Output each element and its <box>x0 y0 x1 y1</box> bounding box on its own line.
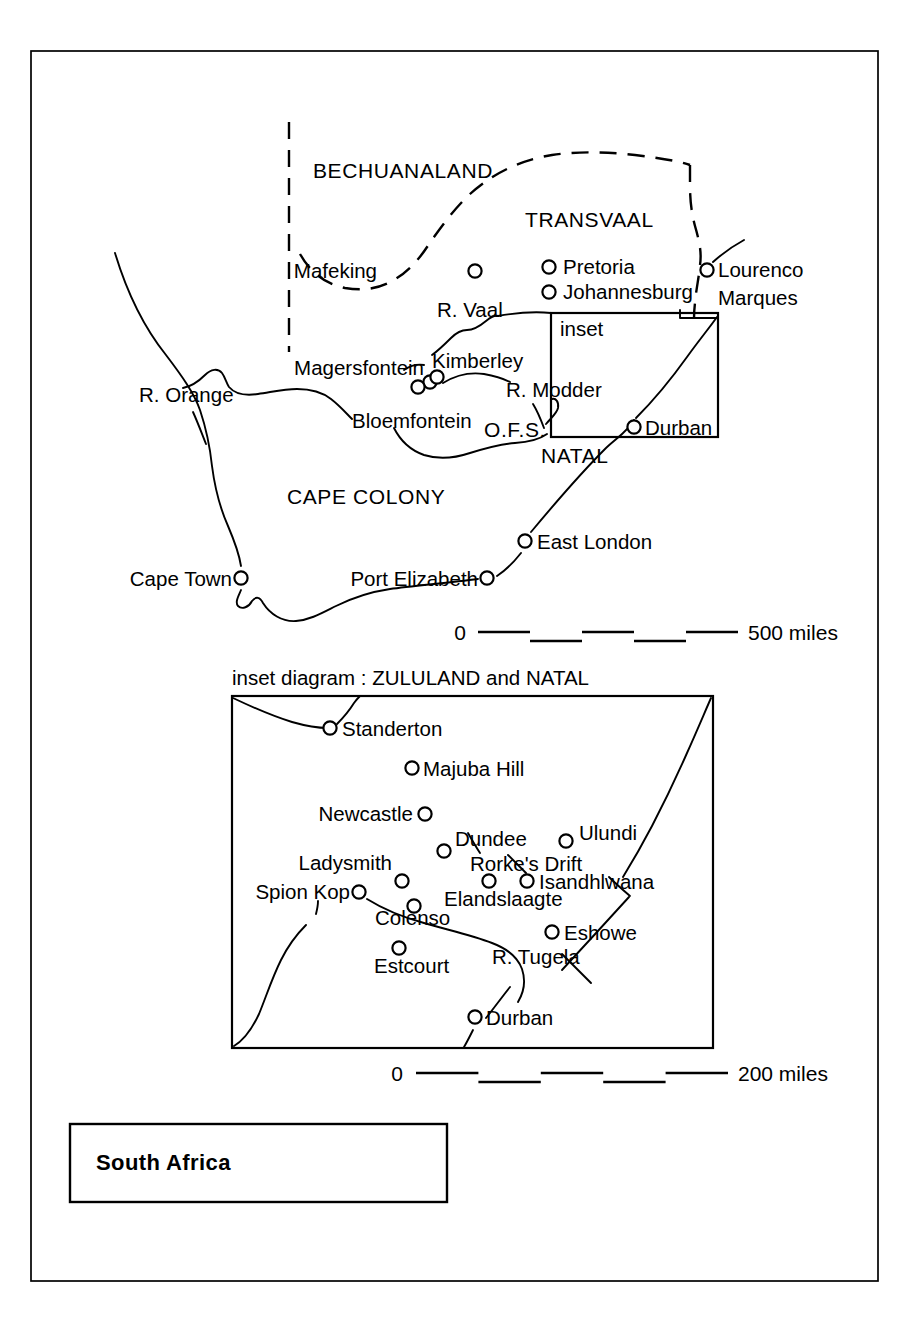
city-label-durban: Durban <box>486 1006 553 1029</box>
region-label-bechuanaland: BECHUANALAND <box>313 159 493 182</box>
south-africa-map: MafekingPretoriaJohannesburgLourencoMarq… <box>0 0 919 1325</box>
city-label-east-london: East London <box>537 530 652 553</box>
inset-scale-segments <box>416 1073 728 1082</box>
city-label-eshowe: Eshowe <box>564 921 637 944</box>
inset-river-label-r-tugela: R. Tugela <box>492 945 580 968</box>
city-label-ulundi: Ulundi <box>579 821 637 844</box>
inset-east-coastline <box>623 698 711 877</box>
city-marker-durban <box>627 420 640 433</box>
orange-river-fork <box>193 412 206 444</box>
city-marker-majuba-hill <box>405 761 418 774</box>
city-marker-cape-town <box>234 571 247 584</box>
west-coastline <box>115 253 241 566</box>
main-scale-bar: 0 500 miles <box>454 621 838 644</box>
city-marker-lourenco <box>700 263 713 276</box>
city-label-colenso: Colenso <box>375 906 450 929</box>
city-label-standerton: Standerton <box>342 717 442 740</box>
inset-caption: inset diagram : ZULULAND and NATAL <box>232 666 589 689</box>
city-label-durban: Durban <box>645 416 712 439</box>
city-marker-dundee <box>437 844 450 857</box>
city-label-pretoria: Pretoria <box>563 255 635 278</box>
east-coastline <box>497 553 521 576</box>
inset-scale-zero-label: 0 <box>391 1062 403 1085</box>
main-scale-max-label: 500 miles <box>748 621 838 644</box>
city-label-mafeking: Mafeking <box>294 259 377 282</box>
city-marker-johannesburg <box>542 285 555 298</box>
city-label-magersfontein: Magersfontein <box>294 356 424 379</box>
vaal-river <box>498 312 551 316</box>
city-marker-elandslaagte <box>482 874 495 887</box>
inset-scale-bar: 0 200 miles <box>391 1062 828 1085</box>
modder-river <box>443 373 510 383</box>
city-label-kimberley: Kimberley <box>432 349 524 372</box>
map-page: MafekingPretoriaJohannesburgLourencoMarq… <box>0 0 919 1325</box>
city-marker-pretoria <box>542 260 555 273</box>
river-label-r-modder: R. Modder <box>506 378 602 401</box>
city-marker-kimberley <box>430 370 443 383</box>
city-label-spion-kop: Spion Kop <box>255 880 350 903</box>
main-scale-segments <box>478 632 738 641</box>
city-marker-port-elizabeth <box>480 571 493 584</box>
region-label-transvaal: TRANSVAAL <box>525 208 654 231</box>
city-label-elandslaagte: Elandslaagte <box>444 887 563 910</box>
inset-west-boundary <box>234 925 306 1046</box>
river-label-r-vaal: R. Vaal <box>437 298 503 321</box>
map-title-label: South Africa <box>96 1150 231 1175</box>
inset-map-labels: StandertonMajuba HillNewcastleDundeeUlun… <box>255 717 654 1029</box>
main-scale-zero-label: 0 <box>454 621 466 644</box>
city-marker-mafeking <box>468 264 481 277</box>
annotation-inset: inset <box>560 317 604 340</box>
city-marker-spion-kop <box>352 885 365 898</box>
city-label-johannesburg: Johannesburg <box>563 280 693 303</box>
city-marker-newcastle <box>418 807 431 820</box>
river-label-r-orange: R. Orange <box>139 383 234 406</box>
city-marker-durban <box>468 1010 481 1023</box>
city-marker-estcourt <box>392 941 405 954</box>
city-label-newcastle: Newcastle <box>318 802 413 825</box>
region-label-cape-colony: CAPE COLONY <box>287 485 445 508</box>
city-label-lourenco: Lourenco <box>718 258 803 281</box>
city-label-port-elizabeth: Port Elizabeth <box>350 567 478 590</box>
city-marker-ladysmith <box>395 874 408 887</box>
city-marker-isandhlwana <box>520 874 533 887</box>
city-marker-east-london <box>518 534 531 547</box>
city-label-estcourt: Estcourt <box>374 954 449 977</box>
city-label-cape-town: Cape Town <box>130 567 232 590</box>
city-label-bloemfontein: Bloemfontein <box>352 409 472 432</box>
city-marker-ulundi <box>559 834 572 847</box>
region-label-natal: NATAL <box>541 444 609 467</box>
city-label-ladysmith: Ladysmith <box>299 851 392 874</box>
city-marker-standerton <box>323 721 336 734</box>
city-label-dundee: Dundee <box>455 827 527 850</box>
inset-tugela-mouth <box>464 1030 473 1047</box>
city-label-marques: Marques <box>718 286 798 309</box>
region-label-o-f-s: O.F.S. <box>484 418 546 441</box>
city-marker-bloemfontein <box>411 380 424 393</box>
city-marker-eshowe <box>545 925 558 938</box>
inset-north-border <box>233 698 328 728</box>
natal-coastline <box>636 317 717 418</box>
inset-scale-max-label: 200 miles <box>738 1062 828 1085</box>
city-label-majuba-hill: Majuba Hill <box>423 757 524 780</box>
